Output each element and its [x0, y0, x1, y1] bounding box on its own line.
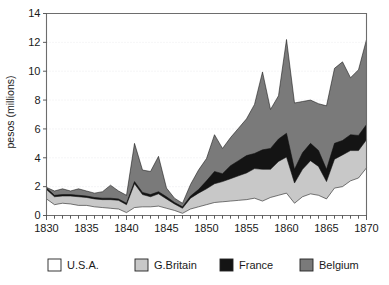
- x-axis-ticks: 183018351840184518501855186018651870: [34, 216, 378, 234]
- x-tick-label: 1830: [34, 222, 58, 234]
- legend-label: U.S.A.: [67, 259, 99, 271]
- legend-item-u-s-a: U.S.A.: [48, 259, 99, 271]
- chart-figure: 02468101214 1830183518401845185018551860…: [0, 0, 389, 285]
- y-tick-label: 2: [34, 180, 40, 192]
- y-tick-label: 10: [28, 65, 40, 77]
- y-axis-ticks: 02468101214: [28, 7, 46, 221]
- legend-swatch: [135, 259, 148, 271]
- series-areas: [47, 39, 367, 215]
- y-tick-label: 6: [34, 123, 40, 135]
- x-tick-label: 1860: [274, 222, 298, 234]
- legend-label: Belgium: [319, 259, 359, 271]
- x-tick-label: 1865: [314, 222, 338, 234]
- legend-item-g-britain: G.Britain: [135, 259, 197, 271]
- x-tick-label: 1870: [354, 222, 378, 234]
- y-axis-title: pesos (millions): [4, 76, 16, 149]
- x-tick-label: 1850: [194, 222, 218, 234]
- x-tick-label: 1835: [74, 222, 98, 234]
- stacked-area-chart: 02468101214 1830183518401845185018551860…: [0, 0, 389, 285]
- x-tick-label: 1855: [234, 222, 258, 234]
- y-tick-label: 4: [34, 152, 40, 164]
- chart-legend: U.S.A.G.BritainFranceBelgium: [48, 259, 359, 271]
- legend-label: France: [239, 259, 273, 271]
- y-tick-label: 8: [34, 94, 40, 106]
- y-tick-label: 0: [34, 209, 40, 221]
- legend-item-france: France: [220, 259, 273, 271]
- legend-swatch: [48, 259, 61, 271]
- y-tick-label: 14: [28, 7, 40, 19]
- legend-swatch: [300, 259, 313, 271]
- x-tick-label: 1840: [114, 222, 138, 234]
- legend-swatch: [220, 259, 233, 271]
- legend-item-belgium: Belgium: [300, 259, 359, 271]
- x-tick-label: 1845: [154, 222, 178, 234]
- y-tick-label: 12: [28, 36, 40, 48]
- legend-label: G.Britain: [154, 259, 197, 271]
